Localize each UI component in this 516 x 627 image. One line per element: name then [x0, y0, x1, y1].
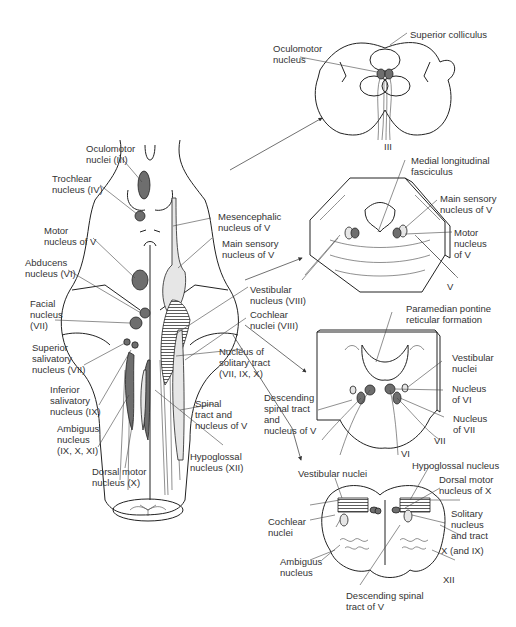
label-vestibular-nuclei-pons: Vestibular nuclei [452, 352, 494, 374]
label-nerve-xii: XII [443, 574, 455, 585]
label-spinal-tract-v: Spinal tract and nucleus of V [195, 398, 247, 431]
medulla-section [310, 465, 460, 585]
label-oculomotor-nucleus: Oculomotor nucleus [273, 43, 322, 65]
label-main-sensory-nucleus: Main sensory nucleus of V [222, 238, 279, 260]
label-nerve-vi: VI [401, 448, 410, 459]
label-descending-spinal-tract: Descending spinal tract and nucleus of V [264, 392, 316, 436]
facial-nucleus-shape [130, 317, 142, 329]
midbrain-section [300, 33, 455, 140]
oculomotor-nucleus-midbrain-shape [377, 69, 385, 79]
label-hypoglossal-nucleus: Hypoglossal nucleus (XII) [190, 451, 243, 473]
label-nerve-vii: VII [434, 435, 446, 446]
label-main-sensory-v-pons: Main sensory nucleus of V [440, 193, 497, 215]
label-vestibular-nuclei-medulla: Vestibular nuclei [298, 468, 367, 479]
label-vestibular-nucleus: Vestibular nucleus (VIII) [250, 284, 306, 306]
upper-pons-section [302, 160, 458, 292]
label-inferior-salivatory: Inferior salivatory nucleus (IX) [50, 384, 101, 417]
label-abducens-nucleus: Abducens nucleus (VI) [25, 257, 76, 279]
label-solitary-tract-nucleus: Nucleus of solitary tract (VII, IX, X) [219, 346, 270, 379]
label-ambiguus-medulla: Ambiguus nucleus [280, 556, 322, 578]
trochlear-nucleus-shape [135, 211, 145, 221]
lower-pons-section [317, 312, 444, 455]
motor-nucleus-v-pons-shape [351, 228, 359, 238]
label-dorsal-motor-x: Dorsal motor nucleus of X [439, 474, 493, 496]
label-descending-spinal-tract-v: Descending spinal tract of V [346, 590, 424, 612]
label-cochlear-nuclei: Cochlear nuclei (VIII) [250, 309, 298, 331]
label-motor-nucleus-v: Motor nucleus of V [44, 225, 96, 247]
vestibular-nuclei-pons-shape [350, 386, 356, 394]
label-facial-nucleus: Facial nucleus (VII) [30, 298, 63, 331]
label-mlf: Medial longitudinal fasciculus [411, 155, 490, 177]
label-dorsal-motor-nucleus: Dorsal motor nucleus (X) [92, 466, 146, 488]
ambiguus-nucleus-shape [125, 352, 134, 430]
motor-nucleus-v-shape [132, 270, 148, 290]
abducens-nucleus-shape [140, 308, 150, 318]
oculomotor-nuclei-shape [138, 171, 150, 199]
label-solitary-nucleus: Solitary nucleus and tract [451, 508, 488, 541]
ambiguus-medulla-shape [340, 539, 369, 550]
inferior-salivatory-shape [132, 342, 138, 348]
label-ambiguus-nucleus: Ambiguus nucleus (IX, X, XI) [57, 423, 99, 456]
label-motor-nucleus-v-pons: Motor nucleus of V [454, 227, 487, 260]
hypoglossal-medulla-shape [375, 508, 381, 514]
label-nucleus-vi: Nucleus of VI [452, 383, 486, 405]
spinal-tract-v-shape [173, 330, 184, 460]
label-nerve-v: V [447, 281, 453, 292]
label-trochlear-nucleus: Trochlear nucleus (IV) [52, 173, 103, 195]
label-nerve-iii: III [384, 141, 392, 152]
label-mesencephalic-nucleus: Mesencephalic nucleus of V [218, 211, 281, 233]
label-hypoglossal-nucleus-medulla: Hypoglossal nucleus [412, 460, 499, 471]
label-oculomotor-nuclei: Oculomotor nuclei (III) [86, 143, 135, 165]
label-pprf: Paramedian pontine reticular formation [406, 303, 491, 325]
label-cochlear-nuclei-medulla: Cochlear nuclei [268, 516, 306, 538]
superior-salivatory-shape [124, 339, 130, 345]
label-superior-salivatory: Superior salivatory nucleus (VII) [32, 342, 85, 375]
main-sensory-and-mesencephalic-v-shape [163, 198, 186, 315]
label-nucleus-vii: Nucleus of VII [453, 413, 487, 435]
label-nerve-x-ix: X (and IX) [441, 545, 484, 556]
label-superior-colliculus: Superior colliculus [410, 29, 487, 40]
vestibular-nuclei-medulla-shape [338, 498, 368, 512]
brainstem-cranial-nerve-nuclei-diagram: Oculomotor nuclei (III) Trochlear nucleu… [0, 0, 516, 627]
solitary-nucleus-shape [404, 510, 412, 522]
